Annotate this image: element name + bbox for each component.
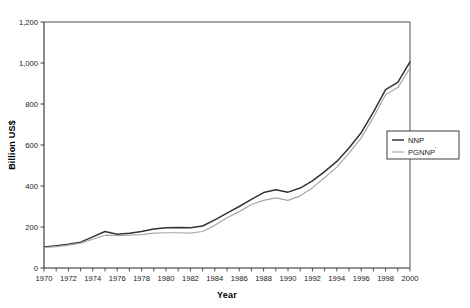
data-series-layer	[44, 62, 410, 248]
y-axis-ticks: 02004006008001,0001,200	[19, 18, 44, 273]
y-tick-label: 200	[25, 223, 38, 232]
x-tick-label: 1978	[133, 274, 150, 283]
x-tick-label: 1974	[84, 274, 101, 283]
y-tick-label: 400	[25, 182, 38, 191]
x-tick-label: 2000	[402, 274, 419, 283]
y-tick-label: 800	[25, 100, 38, 109]
y-tick-label: 0	[34, 264, 38, 273]
y-tick-label: 1,000	[19, 59, 38, 68]
chart-container: 02004006008001,0001,200 1970197219741976…	[0, 0, 470, 308]
x-tick-label: 1986	[231, 274, 248, 283]
x-tick-label: 1992	[304, 274, 321, 283]
y-axis-title: Billion US$	[7, 120, 17, 170]
x-axis-title: Year	[217, 290, 237, 300]
y-tick-label: 600	[25, 141, 38, 150]
y-tick-label: 1,200	[19, 18, 38, 27]
line-chart: 02004006008001,0001,200 1970197219741976…	[0, 0, 470, 308]
x-tick-label: 1982	[182, 274, 199, 283]
x-tick-label: 1972	[60, 274, 77, 283]
series-line-nnp	[44, 62, 410, 247]
series-line-pgnnp	[44, 68, 410, 247]
x-tick-label: 1980	[158, 274, 175, 283]
x-tick-label: 1970	[36, 274, 53, 283]
legend-label-nnp[interactable]: NNP	[408, 136, 424, 145]
x-tick-label: 1984	[206, 274, 223, 283]
x-tick-label: 1990	[280, 274, 297, 283]
x-tick-label: 1994	[328, 274, 345, 283]
x-tick-label: 1996	[353, 274, 370, 283]
x-tick-label: 1976	[109, 274, 126, 283]
chart-legend[interactable]: NNPPGNNP′	[387, 131, 459, 159]
x-tick-label: 1998	[377, 274, 394, 283]
x-tick-label: 1988	[255, 274, 272, 283]
legend-label-pgnnp[interactable]: PGNNP	[408, 148, 435, 157]
x-axis-ticks: 1970197219741976197819801982198419861988…	[36, 268, 419, 283]
